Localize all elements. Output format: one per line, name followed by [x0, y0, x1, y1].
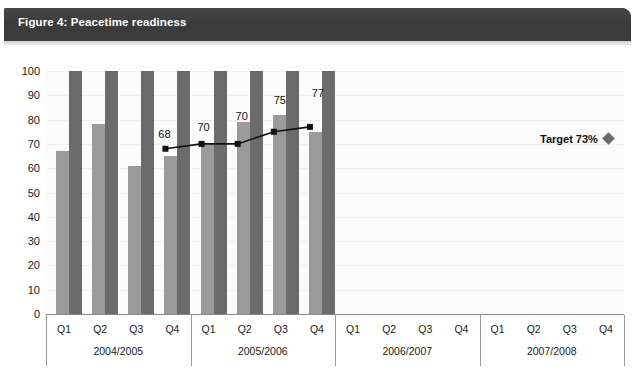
bar-light-bar-Q1-4 — [201, 144, 214, 314]
x-tick-label-10: Q3 — [418, 323, 432, 335]
trend-point-label-68-0: 68 — [158, 128, 170, 140]
y-axis: 1009080706050403020100 — [0, 48, 40, 374]
y-tick-label-50: 50 — [6, 187, 40, 199]
group-separator-8 — [335, 315, 336, 366]
gridline — [46, 95, 624, 96]
y-tick-label-40: 40 — [6, 211, 40, 223]
target-label: Target 73% — [540, 132, 598, 144]
title-bar-shadow — [4, 41, 631, 48]
y-tick-label-20: 20 — [6, 259, 40, 271]
bar-dark-bar-Q2-5 — [250, 71, 263, 314]
y-tick-label-60: 60 — [6, 162, 40, 174]
target-annotation: Target 73% — [540, 129, 613, 147]
bar-dark-bar-Q1-0 — [69, 71, 82, 314]
x-tick-label-0: Q1 — [57, 323, 71, 335]
bar-light-bar-Q4-7 — [309, 132, 322, 314]
y-tick-label-80: 80 — [6, 114, 40, 126]
x-tick-label-14: Q3 — [563, 323, 577, 335]
bar-light-bar-Q1-0 — [56, 151, 69, 314]
x-tick-label-5: Q2 — [238, 323, 252, 335]
figure-container: Figure 4: Peacetime readiness 1009080706… — [0, 0, 635, 374]
bar-light-bar-Q4-3 — [164, 156, 177, 314]
y-tick-label-70: 70 — [6, 138, 40, 150]
x-tick-label-4: Q1 — [202, 323, 216, 335]
bar-light-bar-Q3-6 — [273, 115, 286, 314]
x-tick-label-8: Q1 — [346, 323, 360, 335]
bar-light-bar-Q2-1 — [92, 124, 105, 314]
trend-point-label-75-3: 75 — [274, 94, 286, 106]
bar-dark-bar-Q3-2 — [141, 71, 154, 314]
gridline — [46, 144, 624, 145]
fiscal-year-label-2005/2006: 2005/2006 — [238, 345, 288, 357]
bar-dark-bar-Q4-7 — [322, 71, 335, 314]
x-tick-label-13: Q2 — [527, 323, 541, 335]
x-tick-label-15: Q4 — [599, 323, 613, 335]
y-tick-label-100: 100 — [6, 65, 40, 77]
fiscal-year-label-2007/2008: 2007/2008 — [527, 345, 577, 357]
group-separator-12 — [480, 315, 481, 366]
gridline — [46, 120, 624, 121]
x-tick-label-7: Q4 — [310, 323, 324, 335]
x-tick-label-11: Q4 — [454, 323, 468, 335]
trend-point-label-70-2: 70 — [236, 110, 248, 122]
plot-area — [46, 71, 624, 314]
gridline — [46, 71, 624, 72]
x-tick-label-2: Q3 — [129, 323, 143, 335]
bar-light-bar-Q3-2 — [128, 166, 141, 314]
page-title: Figure 4: Peacetime readiness — [18, 16, 186, 28]
bar-dark-bar-Q3-6 — [286, 71, 299, 314]
bar-light-bar-Q2-5 — [237, 122, 250, 314]
x-tick-label-9: Q2 — [382, 323, 396, 335]
bar-dark-bar-Q4-3 — [177, 71, 190, 314]
trend-point-label-70-1: 70 — [197, 121, 209, 133]
bar-dark-bar-Q2-1 — [105, 71, 118, 314]
target-diamond-marker — [602, 132, 615, 145]
y-tick-label-10: 10 — [6, 284, 40, 296]
y-tick-label-0: 0 — [6, 308, 40, 320]
y-tick-label-90: 90 — [6, 89, 40, 101]
fiscal-year-label-2004/2005: 2004/2005 — [93, 345, 143, 357]
trend-point-label-77-4: 77 — [312, 87, 324, 99]
chart-canvas: 1009080706050403020100 Q1Q2Q3Q4Q1Q2Q3Q4Q… — [0, 48, 635, 374]
group-separator-0 — [46, 315, 47, 366]
x-tick-label-6: Q3 — [274, 323, 288, 335]
figure-title-bar: Figure 4: Peacetime readiness — [4, 8, 631, 41]
x-tick-label-3: Q4 — [165, 323, 179, 335]
group-separator-4 — [191, 315, 192, 366]
group-separator-16 — [624, 315, 625, 366]
y-tick-label-30: 30 — [6, 235, 40, 247]
x-tick-label-1: Q2 — [93, 323, 107, 335]
x-tick-label-12: Q1 — [491, 323, 505, 335]
bar-dark-bar-Q1-4 — [214, 71, 227, 314]
fiscal-year-label-2006/2007: 2006/2007 — [382, 345, 432, 357]
